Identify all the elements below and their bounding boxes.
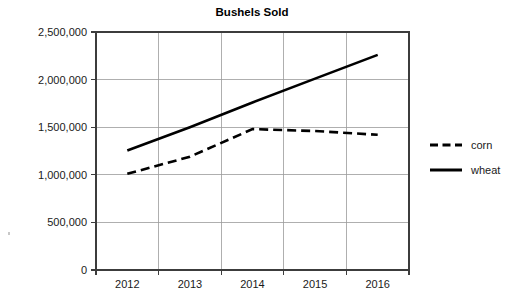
chart-container: Bushels Sold 0500,0001,000,0001,500,0002…	[0, 0, 530, 303]
line-chart: Bushels Sold 0500,0001,000,0001,500,0002…	[0, 0, 530, 303]
paper-speck	[8, 232, 10, 235]
x-tick-label: 2014	[240, 278, 264, 290]
legend-label-corn: corn	[471, 139, 492, 151]
y-tick-label: 1,500,000	[38, 121, 87, 133]
y-tick-label: 2,500,000	[38, 26, 87, 38]
chart-title: Bushels Sold	[216, 6, 289, 18]
legend-label-wheat: wheat	[470, 164, 500, 176]
x-tick-label: 2016	[365, 278, 389, 290]
x-tick-label: 2013	[178, 278, 202, 290]
x-tick-label: 2015	[303, 278, 327, 290]
y-tick-label: 0	[81, 264, 87, 276]
x-tick-label: 2012	[115, 278, 139, 290]
y-tick-label: 2,000,000	[38, 74, 87, 86]
y-tick-label: 500,000	[47, 216, 87, 228]
chart-background	[0, 0, 530, 303]
y-tick-label: 1,000,000	[38, 169, 87, 181]
